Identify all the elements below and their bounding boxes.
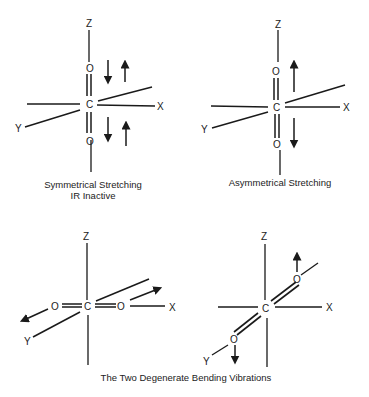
atom-oxygen-top-2: O bbox=[272, 66, 280, 77]
axis-label-y: Y bbox=[15, 123, 22, 134]
axis-label-y-3: Y bbox=[24, 336, 31, 347]
axis-label-x-3: X bbox=[169, 302, 176, 313]
atom-oxygen-right: O bbox=[117, 301, 125, 312]
atom-oxygen-bottom: O bbox=[86, 136, 94, 147]
atom-oxygen-left: O bbox=[51, 301, 59, 312]
atom-oxygen-top: O bbox=[86, 63, 94, 74]
axis-label-y-2: Y bbox=[201, 124, 208, 135]
axis-label-x: X bbox=[157, 101, 164, 112]
axis-label-z-4: Z bbox=[261, 231, 267, 242]
atom-oxygen-lower: O bbox=[230, 334, 238, 345]
axis-label-z-2: Z bbox=[275, 19, 281, 30]
axis-label-x-2: X bbox=[343, 102, 350, 113]
axis-label-z: Z bbox=[86, 18, 92, 29]
atom-carbon-2: C bbox=[273, 102, 280, 113]
caption-symmetrical: Symmetrical Stretching bbox=[44, 179, 142, 190]
axis-label-y-4: Y bbox=[203, 356, 210, 367]
atom-carbon-3: C bbox=[84, 301, 91, 312]
atom-carbon: C bbox=[86, 99, 93, 110]
atom-oxygen-upper: O bbox=[293, 274, 301, 285]
caption-degenerate-bending: The Two Degenerate Bending Vibrations bbox=[101, 372, 272, 383]
co2-vibration-diagram: Z O C O X Y Symmetrical Stretching IR In… bbox=[0, 0, 369, 397]
axis-label-x-4: X bbox=[326, 302, 333, 313]
panel-bending-1 bbox=[24, 243, 165, 365]
atom-carbon-4: C bbox=[262, 303, 269, 314]
atom-oxygen-bottom-2: O bbox=[273, 139, 281, 150]
caption-asymmetrical: Asymmetrical Stretching bbox=[229, 177, 331, 188]
axis-label-z-3: Z bbox=[83, 231, 89, 242]
caption-ir-inactive: IR Inactive bbox=[71, 190, 116, 201]
